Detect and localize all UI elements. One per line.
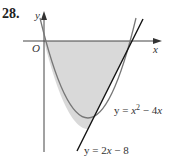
x-axis-label: x	[152, 43, 158, 55]
graph: y O x y = x2 − 4x y = 2x − 8	[0, 0, 178, 165]
origin-label: O	[32, 42, 40, 54]
line-equation-label: y = 2x − 8	[84, 144, 129, 156]
parabola-equation-label: y = x2 − 4x	[114, 103, 162, 116]
y-axis-arrow-icon	[41, 11, 47, 20]
y-axis-label: y	[34, 9, 40, 21]
